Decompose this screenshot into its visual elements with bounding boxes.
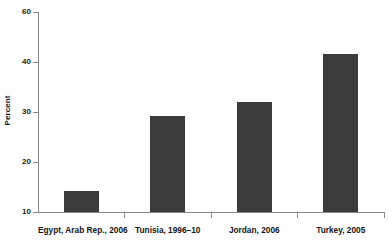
x-tick-mark-4 (384, 213, 385, 218)
y-tick-label-40: 40 (3, 58, 31, 66)
y-tick-mark-30 (33, 112, 38, 113)
bar-chart: Percent 60 40 30 20 10 Egypt, Arab Rep.,… (0, 0, 389, 246)
y-tick-label-10: 10 (3, 208, 31, 216)
bar-turkey-2005 (323, 54, 358, 212)
y-tick-mark-10 (33, 212, 38, 213)
x-tick-mark-2 (211, 213, 212, 218)
y-tick-mark-60 (33, 12, 38, 13)
y-tick-label-60: 60 (3, 8, 31, 16)
x-axis-label-egypt-arab-rep-2006: Egypt, Arab Rep., 2006 (38, 225, 125, 235)
bar-egypt-arab-rep-2006 (64, 191, 99, 212)
x-axis-label-tunisia-1996-10: Tunisia, 1996–10 (125, 225, 212, 235)
x-tick-mark-3 (297, 213, 298, 218)
y-tick-mark-20 (33, 162, 38, 163)
x-tick-mark-1 (124, 213, 125, 218)
x-axis-label-jordan-2006: Jordan, 2006 (211, 225, 298, 235)
y-tick-label-30: 30 (3, 108, 31, 116)
x-axis-label-turkey-2005: Turkey, 2005 (298, 225, 385, 235)
y-tick-label-20: 20 (3, 158, 31, 166)
bar-jordan-2006 (237, 102, 272, 212)
y-tick-mark-40 (33, 62, 38, 63)
bar-tunisia-1996-10 (150, 116, 185, 213)
y-axis-line (38, 12, 39, 213)
